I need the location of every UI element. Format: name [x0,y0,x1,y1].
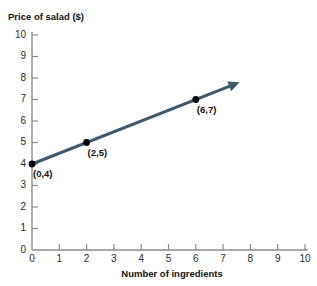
y-tick-label: 4 [20,158,26,169]
y-tick-label: 5 [20,136,26,147]
line-chart: Price of salad ($) 012345678910 01234567… [0,0,317,286]
x-tick-label: 1 [57,253,63,264]
x-tick-label: 6 [193,253,199,264]
data-point [83,139,90,146]
y-tick-label: 0 [20,244,26,255]
data-point-label: (0,4) [33,168,53,179]
y-tick-label: 3 [20,179,26,190]
x-tick-label: 10 [299,253,311,264]
y-tick-label: 8 [20,72,26,83]
data-point-label: (6,7) [197,104,217,115]
y-tick-label: 6 [20,115,26,126]
chart-container: Price of salad ($) 012345678910 01234567… [0,0,317,286]
data-point [192,96,199,103]
x-axis-title: Number of ingredients [121,268,222,279]
x-tick-label: 8 [248,253,254,264]
data-point [29,161,36,168]
x-tick-label: 5 [166,253,172,264]
chart-background [0,0,317,286]
y-tick-label: 2 [20,201,26,212]
x-tick-label: 2 [84,253,90,264]
y-tick-label: 7 [20,93,26,104]
data-point-label: (2,5) [88,147,108,158]
x-tick-label: 4 [138,253,144,264]
x-tick-label: 3 [111,253,117,264]
x-tick-label: 0 [29,253,35,264]
y-tick-label: 9 [20,50,26,61]
x-tick-label: 7 [220,253,226,264]
x-tick-label: 9 [275,253,281,264]
y-tick-label: 10 [15,29,27,40]
y-tick-label: 1 [20,222,26,233]
y-axis-title: Price of salad ($) [8,11,84,22]
